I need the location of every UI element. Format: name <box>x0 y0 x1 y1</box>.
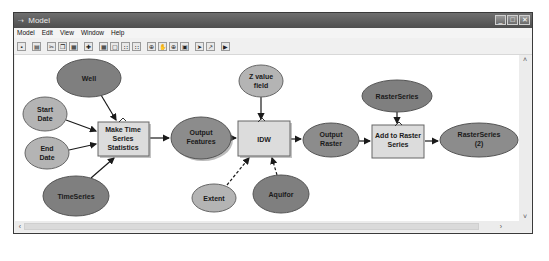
edge-timeseries-to-make-ts <box>91 158 114 178</box>
zoom-in-icon[interactable]: ⊕ <box>147 42 156 51</box>
node-end-date-label-2: Date <box>39 154 54 161</box>
model-icon: ⇢ <box>18 17 24 24</box>
title-bar[interactable]: ⇢ Model _ □ ✕ <box>14 13 532 28</box>
node-output-features-label-2: Features <box>186 138 215 145</box>
node-well[interactable]: Well <box>57 59 121 97</box>
connect-icon[interactable]: ↗ <box>206 42 215 51</box>
auto-layout-icon[interactable]: ▦ <box>99 42 108 51</box>
horizontal-scroll-thumb[interactable] <box>24 223 479 230</box>
grid-icon[interactable]: ∷ <box>121 42 130 51</box>
scrollbar-corner <box>519 221 531 232</box>
overview-icon[interactable]: ▣ <box>180 42 189 51</box>
menu-edit[interactable]: Edit <box>42 28 53 38</box>
pan-icon[interactable]: ✋ <box>158 42 167 51</box>
fixed-zoom-icon[interactable]: ⊕ <box>169 42 178 51</box>
menu-view[interactable]: View <box>60 28 74 38</box>
maximize-button[interactable]: □ <box>507 15 518 25</box>
edge-aquifor-to-idw <box>272 158 277 175</box>
vertical-scrollbar[interactable]: ˄ ˅ <box>519 55 531 222</box>
horizontal-scrollbar[interactable]: ‹ › <box>15 221 520 232</box>
node-extent[interactable]: Extent <box>192 184 236 212</box>
node-output-raster[interactable]: Output Raster <box>303 123 359 157</box>
run-icon[interactable]: ▶ <box>221 42 230 51</box>
node-add-to-raster-series[interactable]: Add to Raster Series <box>372 122 424 158</box>
node-well-label: Well <box>82 75 96 82</box>
node-aquifor[interactable]: Aquifor <box>253 175 309 213</box>
node-raster-series-2-label-2: (2) <box>475 140 484 148</box>
node-z-value-label-2: field <box>254 82 268 89</box>
node-start-date[interactable]: Start Date <box>23 97 67 131</box>
node-raster-series-2[interactable]: RasterSeries (2) <box>440 123 518 157</box>
select-icon[interactable]: ➤ <box>195 42 204 51</box>
node-output-raster-label-2: Raster <box>320 140 342 147</box>
node-timeseries-label: TimeSeries <box>57 193 94 200</box>
node-aquifor-label: Aquifor <box>269 191 294 199</box>
node-timeseries[interactable]: TimeSeries <box>43 176 109 216</box>
node-idw[interactable]: IDW <box>238 118 292 158</box>
scroll-up-icon[interactable]: ˄ <box>519 55 531 65</box>
node-raster-series-label: RasterSeries <box>376 93 419 100</box>
menu-model[interactable]: Model <box>17 28 35 38</box>
node-make-ts-label-3: Statistics <box>107 144 138 151</box>
menu-help[interactable]: Help <box>111 28 124 38</box>
window-title: Model <box>28 16 50 25</box>
print-icon[interactable]: ▤ <box>32 42 41 51</box>
add-data-icon[interactable]: ✚ <box>84 42 93 51</box>
minimize-button[interactable]: _ <box>495 15 506 25</box>
node-start-date-label-2: Date <box>37 115 52 122</box>
node-make-ts-label-2: Series <box>112 135 133 142</box>
model-diagram: Well Start Date End Date TimeSeries <box>15 55 520 222</box>
node-make-ts-label-1: Make Time <box>105 126 141 133</box>
node-make-time-series-statistics[interactable]: Make Time Series Statistics <box>98 118 151 158</box>
cut-icon[interactable]: ✂ <box>47 42 56 51</box>
edge-enddate-to-make-ts <box>69 144 96 150</box>
close-button[interactable]: ✕ <box>519 15 530 25</box>
paste-icon[interactable]: ▦ <box>69 42 78 51</box>
node-extent-label: Extent <box>203 195 225 202</box>
full-extent-icon[interactable]: ▢ <box>110 42 119 51</box>
node-raster-series-2-label-1: RasterSeries <box>458 131 501 138</box>
edge-startdate-to-make-ts <box>66 120 96 131</box>
model-canvas[interactable]: Well Start Date End Date TimeSeries <box>15 55 520 222</box>
node-start-date-label-1: Start <box>37 106 54 113</box>
save-icon[interactable]: ▪ <box>17 42 26 51</box>
menu-window[interactable]: Window <box>81 28 104 38</box>
menu-bar: Model Edit View Window Help <box>14 28 532 38</box>
node-z-value-field[interactable]: Z value field <box>239 65 283 97</box>
node-add-raster-label-2: Series <box>387 141 408 148</box>
toolbar: ▪ ▤ ✂ ❐ ▦ ✚ ▦ ▢ ∷ ∷ ⊕ ✋ ⊕ ▣ ➤ ↗ ▶ <box>14 38 532 55</box>
hammer-icon <box>119 118 126 122</box>
edge-extent-to-idw <box>227 158 249 185</box>
node-end-date-label-1: End <box>40 145 53 152</box>
node-output-raster-label-1: Output <box>320 131 344 139</box>
node-add-raster-label-1: Add to Raster <box>375 132 421 139</box>
model-window: ⇢ Model _ □ ✕ Model Edit View Window Hel… <box>13 12 533 234</box>
edge-well-to-make-ts <box>101 95 116 120</box>
node-raster-series[interactable]: RasterSeries <box>362 80 432 112</box>
scroll-right-icon[interactable]: › <box>496 221 506 232</box>
node-z-value-label-1: Z value <box>249 73 273 80</box>
grid-snap-icon[interactable]: ∷ <box>132 42 141 51</box>
node-output-features[interactable]: Output Features <box>171 117 233 161</box>
node-end-date[interactable]: End Date <box>25 137 69 169</box>
node-idw-label: IDW <box>257 136 271 143</box>
node-output-features-label-1: Output <box>190 129 214 137</box>
copy-icon[interactable]: ❐ <box>58 42 67 51</box>
